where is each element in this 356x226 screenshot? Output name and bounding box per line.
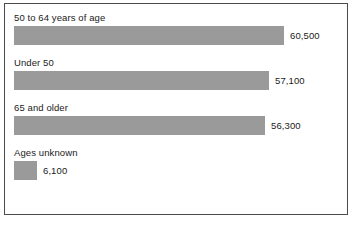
- bar-row: 57,100: [14, 71, 343, 90]
- bar-value-label: 56,300: [265, 120, 301, 131]
- bar-category-label: 50 to 64 years of age: [14, 12, 343, 26]
- bar-row: 6,100: [14, 161, 343, 180]
- bar: [14, 116, 265, 135]
- bar-category-label: Under 50: [14, 57, 343, 71]
- bar: [14, 26, 284, 45]
- chart-frame: 50 to 64 years of age 60,500 Under 50 57…: [4, 3, 348, 215]
- bar: [14, 161, 37, 180]
- bar-category-label: Ages unknown: [14, 147, 343, 161]
- bar-chart-plot-area: 50 to 64 years of age 60,500 Under 50 57…: [14, 12, 343, 210]
- bar-group: Under 50 57,100: [14, 57, 343, 97]
- bar-row: 56,300: [14, 116, 343, 135]
- bar-value-label: 60,500: [284, 30, 320, 41]
- bar-group: Ages unknown 6,100: [14, 147, 343, 187]
- bar-value-label: 6,100: [37, 165, 67, 176]
- bar-group: 65 and older 56,300: [14, 102, 343, 142]
- bar-group: 50 to 64 years of age 60,500: [14, 12, 343, 52]
- bar-value-label: 57,100: [269, 75, 305, 86]
- bar-row: 60,500: [14, 26, 343, 45]
- bar: [14, 71, 269, 90]
- bar-category-label: 65 and older: [14, 102, 343, 116]
